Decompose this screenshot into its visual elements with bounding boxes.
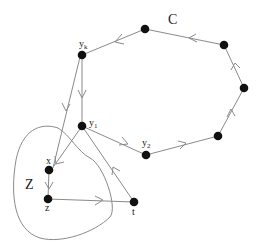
node-label-y1: y1: [89, 117, 98, 130]
node-y1: [78, 122, 87, 131]
edge-c3-c2: [224, 45, 244, 88]
node-yk: [78, 51, 87, 60]
node-c1: [141, 25, 150, 34]
edge-c2-c1: [145, 29, 224, 45]
arrow-y1-x-icon: [55, 156, 64, 164]
edges: [48, 29, 244, 202]
graph-diagram: C Z yk y1 y2 x z t: [0, 0, 265, 252]
edge-x-z: [48, 170, 49, 199]
node-y2: [142, 151, 151, 160]
node-c4: [214, 132, 223, 141]
region-label-z: Z: [25, 177, 34, 192]
edge-c4-c3: [218, 88, 244, 136]
node-label-yk: yk: [79, 38, 88, 51]
node-t: [130, 198, 139, 207]
node-c3: [240, 84, 249, 93]
node-c2: [220, 41, 229, 50]
edge-yk-x: [53, 57, 80, 168]
nodes: [44, 25, 249, 207]
node-label-t: t: [132, 206, 135, 217]
arrowheads: [45, 34, 240, 205]
node-label-x: x: [46, 155, 51, 166]
cycle-label-c: C: [168, 12, 177, 27]
edge-y2-c4: [146, 136, 218, 155]
edge-z-t: [48, 199, 134, 202]
node-label-y2: y2: [142, 137, 151, 150]
node-label-z: z: [45, 202, 50, 213]
edge-c1-yk: [82, 29, 145, 55]
node-x: [45, 166, 54, 175]
